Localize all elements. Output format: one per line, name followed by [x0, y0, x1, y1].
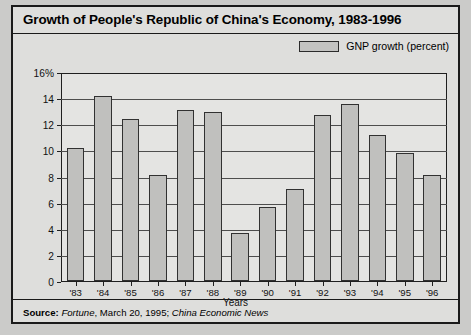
x-tick-mark [131, 282, 132, 286]
y-tick-label-14: 14 [43, 94, 54, 105]
chart-figure: Growth of People's Republic of China's E… [11, 5, 460, 324]
y-tick-mark-0 [57, 282, 61, 283]
legend-swatch-gnp-growth [299, 41, 339, 52]
bar-slot [117, 74, 144, 281]
bar-slot [364, 74, 391, 281]
bar-slot [254, 74, 281, 281]
x-tick-mark [76, 282, 77, 286]
source-divider [13, 299, 458, 300]
x-tick-mark [295, 282, 296, 286]
bar-slot [227, 74, 254, 281]
x-tick-mark [103, 282, 104, 286]
y-tick-label-6: 6 [48, 198, 54, 209]
y-tick-label-12: 12 [43, 120, 54, 131]
bar-slot [418, 74, 445, 281]
bar-85 [122, 119, 140, 281]
bar-84 [94, 96, 112, 281]
bar-88 [204, 112, 222, 281]
y-tick-mark-10 [57, 151, 61, 152]
bar-93 [341, 104, 359, 281]
bar-95 [396, 153, 414, 281]
x-tick-mark [268, 282, 269, 286]
bar-83 [67, 148, 85, 281]
y-tick-mark-4 [57, 230, 61, 231]
x-tick-mark [350, 282, 351, 286]
y-tick-mark-16 [57, 73, 61, 74]
y-tick-label-4: 4 [48, 224, 54, 235]
bar-90 [259, 207, 277, 281]
x-tick-mark [405, 282, 406, 286]
bar-89 [231, 233, 249, 281]
bar-slot [336, 74, 363, 281]
x-tick-mark [432, 282, 433, 286]
x-tick-mark [158, 282, 159, 286]
source-note: Source: Fortune, March 20, 1995; China E… [23, 307, 268, 318]
y-tick-label-10: 10 [43, 146, 54, 157]
bar-slot [281, 74, 308, 281]
y-tick-mark-2 [57, 256, 61, 257]
y-tick-mark-6 [57, 204, 61, 205]
source-publication-1: Fortune [61, 307, 94, 318]
bar-slot [391, 74, 418, 281]
source-middle-text: , March 20, 1995; [94, 307, 171, 318]
source-publication-2: China Economic News [172, 307, 269, 318]
bar-series-gnp-growth [62, 74, 446, 281]
x-tick-mark [240, 282, 241, 286]
y-tick-label-8: 8 [48, 172, 54, 183]
title-divider [13, 33, 458, 34]
bar-91 [286, 189, 304, 281]
bar-slot [199, 74, 226, 281]
bar-slot [62, 74, 89, 281]
bar-96 [423, 175, 441, 281]
bar-92 [314, 115, 332, 281]
bar-86 [149, 175, 167, 281]
chart-legend: GNP growth (percent) [299, 40, 449, 52]
bar-slot [309, 74, 336, 281]
y-tick-mark-14 [57, 99, 61, 100]
plot-wrapper: 0246810121416% '83'84'85'86'87'88'89'90'… [61, 73, 447, 282]
legend-label-gnp-growth: GNP growth (percent) [346, 40, 449, 52]
bar-slot [172, 74, 199, 281]
y-tick-label-2: 2 [48, 250, 54, 261]
x-tick-mark [377, 282, 378, 286]
title-bar: Growth of People's Republic of China's E… [13, 7, 458, 34]
x-tick-mark [323, 282, 324, 286]
y-tick-label-0: 0 [48, 277, 54, 288]
y-tick-mark-12 [57, 125, 61, 126]
y-tick-label-16: 16% [34, 68, 54, 79]
page-title: Growth of People's Republic of China's E… [23, 12, 401, 27]
x-tick-mark [185, 282, 186, 286]
x-tick-mark [213, 282, 214, 286]
bar-94 [369, 135, 387, 281]
source-label: Source: [23, 307, 59, 318]
bar-slot [144, 74, 171, 281]
y-tick-mark-8 [57, 178, 61, 179]
bar-slot [89, 74, 116, 281]
bar-87 [177, 110, 195, 281]
